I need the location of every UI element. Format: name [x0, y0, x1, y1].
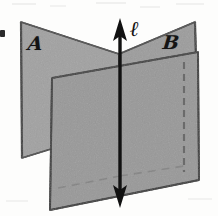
plane-a-left-edge	[21, 22, 22, 158]
geometry-figure: A B ℓ	[0, 0, 218, 216]
page-edge-mark	[0, 30, 5, 37]
line-l-label: ℓ	[130, 18, 139, 39]
plane-b-label: B	[162, 33, 180, 52]
plane-a-label: A	[27, 34, 44, 53]
front-plane-right-edge	[198, 52, 199, 180]
